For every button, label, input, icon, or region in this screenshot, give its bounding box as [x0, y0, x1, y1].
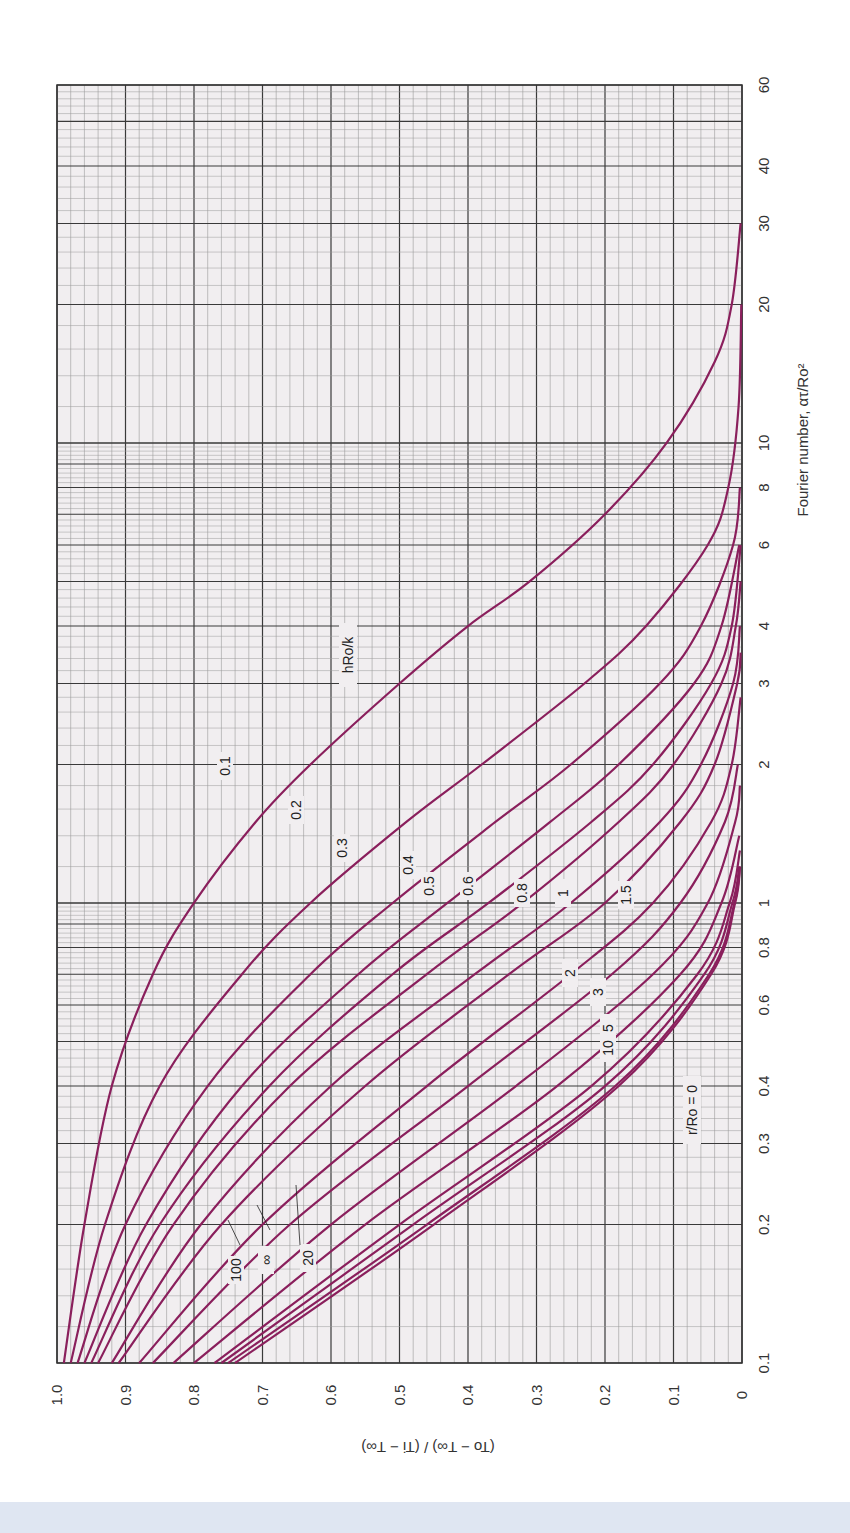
curve-label: 0.2: [288, 800, 304, 820]
fourier-tick-label: 40: [755, 158, 772, 175]
value-tick-label: 0: [733, 1391, 750, 1399]
fourier-tick-label: 0.8: [755, 937, 772, 958]
fourier-tick-label: 3: [755, 679, 772, 687]
value-tick-label: 0.1: [665, 1385, 682, 1406]
curve-label: 0.8: [514, 883, 530, 903]
curve-label: 10: [600, 1040, 616, 1056]
fourier-tick-label: 0.2: [755, 1214, 772, 1235]
fourier-tick-label: 4: [755, 622, 772, 630]
fourier-tick-label: 8: [755, 483, 772, 491]
fourier-tick-label: 0.6: [755, 995, 772, 1016]
fourier-tick-label: 2: [755, 760, 772, 768]
value-tick-label: 0.4: [459, 1385, 476, 1406]
curve-label: ∞: [258, 1255, 274, 1265]
value-tick-label: 0.7: [254, 1385, 271, 1406]
fourier-tick-label: 20: [755, 296, 772, 313]
curve-label: 1: [555, 889, 571, 897]
curve-label: 0.6: [460, 876, 476, 896]
value-tick-label: 1.0: [48, 1385, 65, 1406]
value-axis-ticks: 00.10.20.30.40.50.60.70.80.91.0: [48, 1385, 750, 1406]
fourier-axis-ticks: 0.10.20.30.40.60.81234681020304060: [755, 77, 772, 1374]
curve-label: 1.5: [618, 885, 634, 905]
value-tick-label: 0.8: [185, 1385, 202, 1406]
fourier-tick-label: 0.4: [755, 1076, 772, 1097]
fourier-axis-title: Fourier number, ατ/Ro²: [794, 364, 811, 517]
curve-label: 0.5: [421, 876, 437, 896]
value-tick-label: 0.5: [391, 1385, 408, 1406]
parameter-label: hRo/k: [339, 623, 357, 687]
curve-label: 2: [562, 969, 578, 977]
fourier-tick-label: 0.1: [755, 1353, 772, 1374]
page-bottom-band: [0, 1502, 850, 1533]
fourier-tick-label: 0.3: [755, 1133, 772, 1154]
fourier-tick-label: 60: [755, 77, 772, 94]
curve-label: 5: [600, 1024, 616, 1032]
fourier-tick-label: 10: [755, 435, 772, 452]
fourier-tick-label: 30: [755, 215, 772, 232]
value-axis-title: (To − T∞) / (Ti − T∞): [361, 1439, 495, 1456]
heisler-chart: 00.10.20.30.40.50.60.70.80.91.00.10.20.3…: [0, 0, 850, 1533]
value-tick-label: 0.6: [322, 1385, 339, 1406]
curve-label: 100: [228, 1258, 244, 1282]
curve-label: 0.3: [334, 838, 350, 858]
value-tick-label: 0.9: [117, 1385, 134, 1406]
fourier-tick-label: 6: [755, 541, 772, 549]
curve-label: 0.1: [217, 756, 233, 776]
value-tick-label: 0.2: [596, 1385, 613, 1406]
svg-text:r/Ro = 0: r/Ro = 0: [684, 1085, 700, 1135]
fourier-tick-label: 1: [755, 899, 772, 907]
svg-text:hRo/k: hRo/k: [340, 636, 356, 674]
position-label: r/Ro = 0: [683, 1076, 701, 1144]
value-tick-label: 0.3: [528, 1385, 545, 1406]
curve-label: 3: [590, 988, 606, 996]
curve-label: 0.4: [400, 855, 416, 875]
curve-label: 20: [300, 1250, 316, 1266]
